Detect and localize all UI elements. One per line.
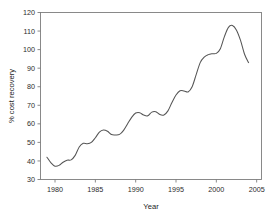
- x-tick-label: 1995: [168, 185, 184, 194]
- x-axis-title: Year: [143, 202, 159, 211]
- x-tick-label: 1980: [47, 185, 63, 194]
- y-tick-label: 90: [27, 64, 35, 73]
- y-tick-label: 120: [23, 8, 35, 17]
- y-tick-label: 100: [23, 45, 35, 54]
- plot-frame: [41, 13, 262, 180]
- x-axis-ticks: 198019851990199520002005: [47, 180, 265, 194]
- x-tick-label: 2000: [208, 185, 224, 194]
- y-tick-label: 60: [27, 119, 35, 128]
- y-tick-label: 40: [27, 157, 35, 166]
- y-axis-title: % cost recovery: [7, 69, 16, 123]
- x-tick-label: 1990: [128, 185, 144, 194]
- y-tick-label: 80: [27, 82, 35, 91]
- series-line-cost-recovery: [47, 25, 249, 166]
- y-tick-label: 110: [24, 27, 35, 36]
- y-tick-label: 50: [27, 138, 35, 147]
- y-tick-label: 30: [27, 175, 35, 184]
- x-tick-label: 2005: [249, 185, 265, 194]
- y-axis-ticks: 30405060708090100110120: [23, 8, 41, 184]
- y-tick-label: 70: [27, 101, 35, 110]
- figure-container: 30405060708090100110120 1980198519901995…: [0, 0, 278, 216]
- line-chart: 30405060708090100110120 1980198519901995…: [0, 0, 278, 216]
- x-tick-label: 1985: [87, 185, 103, 194]
- data-series-group: [47, 25, 249, 166]
